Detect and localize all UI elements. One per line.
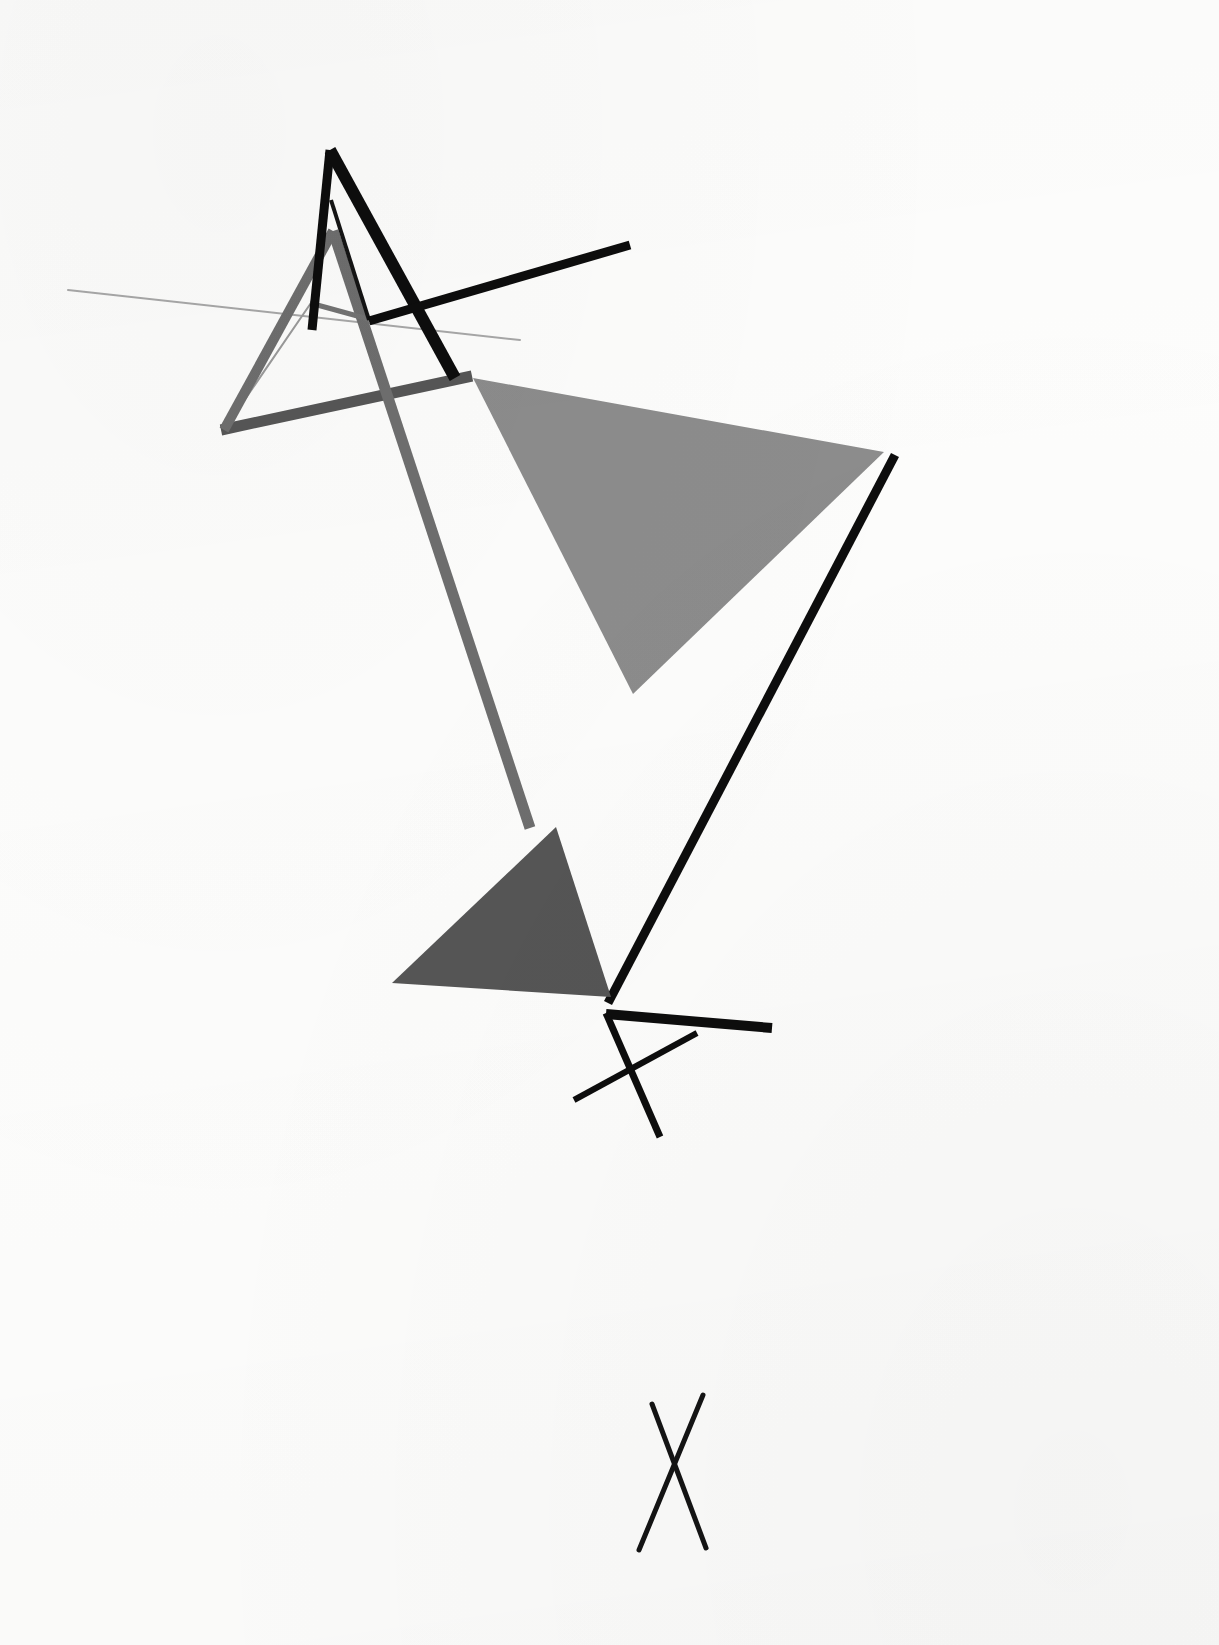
artwork-canvas: Abstract Geometric Composition — [0, 0, 1219, 1645]
composition-svg — [0, 0, 1219, 1645]
